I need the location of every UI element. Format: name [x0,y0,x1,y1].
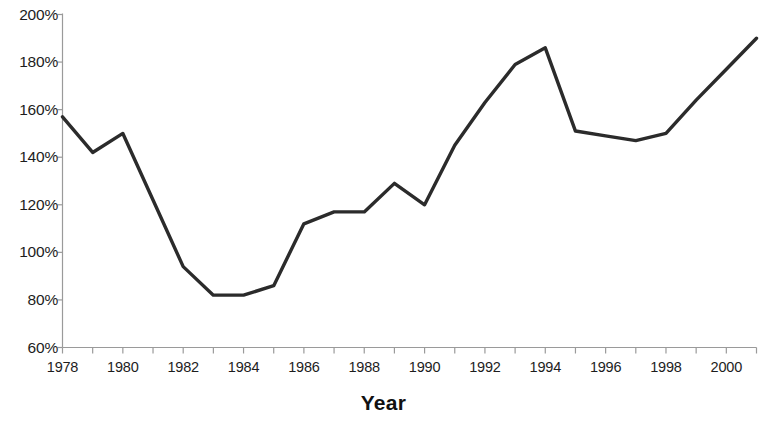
x-axis-tick-label: 1982 [167,360,198,375]
x-axis-tick-label: 1998 [650,360,681,375]
x-axis-tick-labels: 1978198019821984198619881990199219941996… [0,0,767,422]
x-axis-tick-label: 1990 [409,360,440,375]
x-axis-tick-label: 1978 [47,360,78,375]
x-axis-tick-label: 1994 [530,360,561,375]
x-axis-tick-label: 1980 [107,360,138,375]
x-axis-tick-label: 1984 [228,360,259,375]
x-axis-tick-label: 2000 [711,360,742,375]
x-axis-title: Year [0,391,767,415]
x-axis-tick-label: 1992 [469,360,500,375]
line-chart: 200%180%160%140%120%100%80%60% 197819801… [0,0,767,422]
x-axis-tick-label: 1996 [590,360,621,375]
x-axis-tick-label: 1986 [288,360,319,375]
x-axis-tick-label: 1988 [349,360,380,375]
